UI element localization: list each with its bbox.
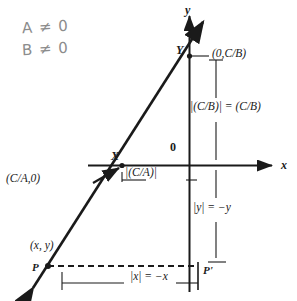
y-intercept-coordinate-label: (0,C/B) bbox=[212, 48, 246, 60]
handwritten-condition-a: A ≠ 0 bbox=[22, 19, 70, 36]
x-intercept-coordinate-label: (C/A,0) bbox=[6, 173, 40, 185]
geometry-figure: y x 0 Y X P P' (0,C/B) |(C/B)| = (C/B) (… bbox=[0, 0, 297, 301]
y-distance-measure-label: |y| = −y bbox=[193, 202, 231, 214]
x-distance-measure-label: |x| = −x bbox=[130, 271, 168, 283]
point-marker-X bbox=[119, 163, 124, 168]
origin-label: 0 bbox=[170, 141, 176, 153]
point-label-Y: Y bbox=[176, 44, 183, 56]
y-axis-label: y bbox=[185, 4, 190, 16]
x-axis-label: x bbox=[281, 159, 287, 171]
point-label-P: P bbox=[32, 262, 39, 273]
handwritten-condition-b: B ≠ 0 bbox=[22, 41, 70, 58]
x-intercept-measure-label: |(C/A)| bbox=[125, 167, 157, 179]
y-intercept-measure-label: |(C/B)| = (C/B) bbox=[190, 101, 261, 113]
point-label-P-prime: P' bbox=[203, 265, 213, 276]
point-p-coordinate-label: (x, y) bbox=[30, 240, 54, 252]
point-label-X: X bbox=[111, 150, 119, 162]
x-intercept-pointer-arrow bbox=[93, 168, 119, 183]
